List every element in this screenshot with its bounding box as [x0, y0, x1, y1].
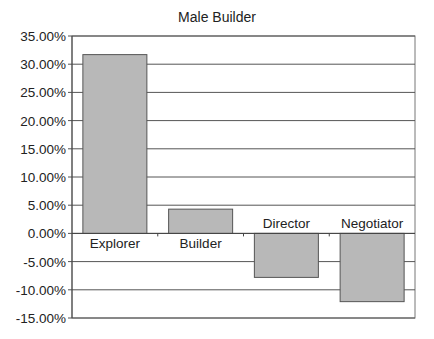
x-category-label: Negotiator	[341, 216, 404, 231]
x-category-label: Director	[263, 216, 311, 231]
bar-director	[254, 233, 318, 277]
bar-negotiator	[340, 233, 404, 301]
y-tick-label: -15.00%	[16, 311, 66, 326]
x-category-label: Explorer	[90, 236, 141, 251]
x-category-label: Builder	[180, 236, 223, 251]
y-tick-label: 35.00%	[20, 29, 66, 44]
y-tick-label: 0.00%	[28, 226, 66, 241]
bar-explorer	[83, 55, 147, 234]
y-tick-label: -5.00%	[23, 255, 66, 270]
y-tick-label: 15.00%	[20, 142, 66, 157]
y-tick-label: 20.00%	[20, 114, 66, 129]
y-tick-label: 25.00%	[20, 85, 66, 100]
y-tick-label: 10.00%	[20, 170, 66, 185]
bar-chart: 35.00%30.00%25.00%20.00%15.00%10.00%5.00…	[0, 0, 434, 339]
y-tick-label: 5.00%	[28, 198, 66, 213]
y-tick-label: -10.00%	[16, 283, 66, 298]
bar-builder	[169, 209, 233, 233]
y-tick-label: 30.00%	[20, 57, 66, 72]
